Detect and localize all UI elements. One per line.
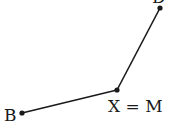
label-xm: X = M	[108, 96, 163, 116]
geometry-diagram: B X = M D	[0, 0, 171, 133]
point-xm	[114, 87, 119, 92]
segment-b-xm	[22, 90, 117, 113]
label-b: B	[4, 105, 17, 125]
segment-xm-top	[117, 8, 160, 90]
point-b	[19, 110, 24, 115]
label-top: D	[152, 0, 166, 7]
